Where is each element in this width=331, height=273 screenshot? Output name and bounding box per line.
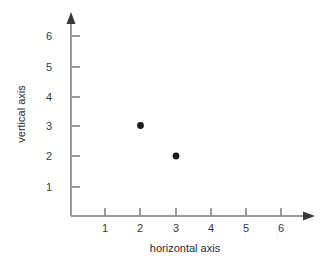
y-tick-label-2: 2	[46, 150, 52, 162]
y-axis-title: vertical axis	[15, 85, 27, 143]
x-tick-label-6: 6	[278, 222, 284, 234]
y-tick-label-5: 5	[46, 61, 52, 73]
y-tick-label-6: 6	[46, 30, 52, 42]
plot-canvas: 6 5 4 3 2 1 1 2 3 4 5 6 horizontal axis …	[0, 0, 331, 273]
vertical-axis-arrow-icon	[67, 12, 76, 24]
y-tick-label-3: 3	[46, 120, 52, 132]
x-tick-label-3: 3	[173, 222, 179, 234]
x-axis-title: horizontal axis	[150, 242, 221, 254]
x-tick-label-5: 5	[243, 222, 249, 234]
horizontal-axis-arrow-icon	[303, 212, 315, 221]
x-tick-label-1: 1	[102, 222, 108, 234]
x-tick-label-2: 2	[137, 222, 143, 234]
data-point	[173, 153, 180, 160]
scatter-plot-figure: 6 5 4 3 2 1 1 2 3 4 5 6 horizontal axis …	[0, 0, 331, 273]
x-tick-label-4: 4	[208, 222, 214, 234]
data-point	[137, 122, 144, 129]
y-tick-label-4: 4	[46, 91, 52, 103]
y-tick-label-1: 1	[46, 181, 52, 193]
